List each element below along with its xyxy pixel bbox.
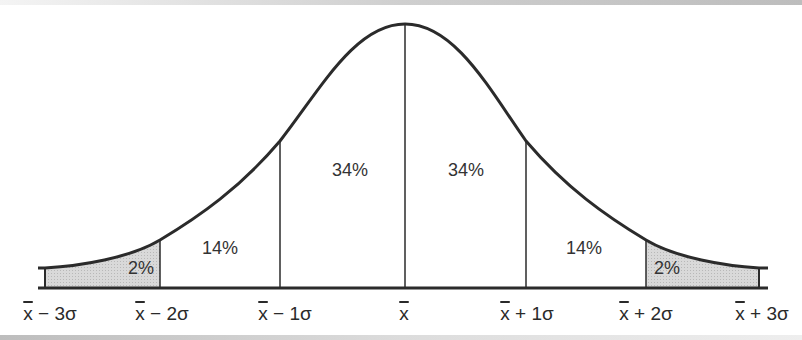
region-label-right-14: 14% [566,238,602,259]
axis-label-mean: x [399,303,409,325]
normal-distribution-diagram [0,0,802,340]
region-label-right-34: 34% [448,160,484,181]
region-label-left-tail: 2% [128,258,154,279]
axis-label-plus-2sigma: x + 2σ [619,303,672,325]
axis-label-plus-3sigma: x + 3σ [735,303,788,325]
region-label-right-tail: 2% [654,258,680,279]
axis-label-minus-2sigma: x − 2σ [135,303,188,325]
axis-label-plus-1sigma: x + 1σ [500,303,553,325]
region-label-left-14: 14% [202,238,238,259]
axis-label-minus-1sigma: x − 1σ [258,303,311,325]
bottom-edge-band [0,335,802,340]
axis-label-minus-3sigma: x − 3σ [23,303,76,325]
bell-curve [38,24,768,268]
region-label-left-34: 34% [332,160,368,181]
